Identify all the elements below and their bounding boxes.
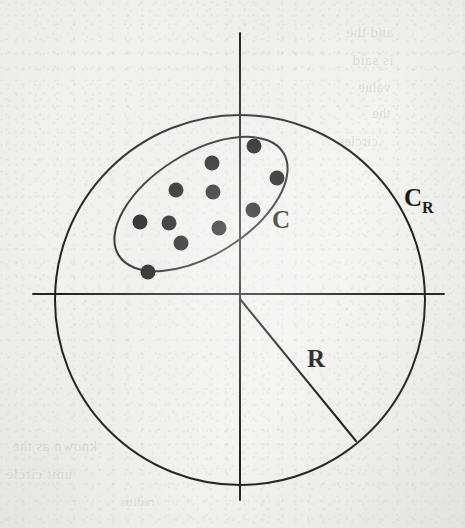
sample-point — [169, 183, 184, 198]
sample-point — [174, 236, 189, 251]
figure-page: and theis saidvaluethecirclesknown as th… — [0, 0, 465, 528]
label-radius-r: R — [307, 345, 326, 372]
sample-point — [270, 171, 285, 186]
sample-point — [206, 185, 221, 200]
sample-point — [133, 215, 148, 230]
sample-point — [141, 265, 156, 280]
ellipse-c — [92, 109, 311, 298]
sample-point — [247, 139, 262, 154]
sample-point — [212, 221, 227, 236]
label-circle-c-r: CR — [404, 184, 434, 216]
radius-segment — [240, 299, 356, 441]
sample-point — [162, 216, 177, 231]
sample-point — [246, 203, 261, 218]
label-circle-base: C — [404, 184, 422, 211]
label-ellipse-c: C — [272, 206, 290, 233]
sample-point — [205, 156, 220, 171]
label-circle-subscript: R — [422, 199, 434, 216]
geometry-figure: C CR R — [0, 0, 465, 528]
